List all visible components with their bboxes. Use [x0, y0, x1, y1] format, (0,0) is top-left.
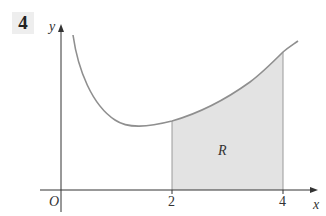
y-axis-label: y: [47, 19, 56, 34]
origin-label: O: [49, 194, 59, 209]
tick-label-4: 4: [279, 194, 286, 209]
x-axis-label: x: [312, 197, 320, 212]
tick-label-2: 2: [168, 194, 175, 209]
graph: y x O 2 4 R: [0, 0, 326, 216]
x-axis-arrow-icon: [310, 187, 318, 193]
region-label: R: [217, 143, 227, 158]
region-r: [172, 52, 283, 190]
y-axis-arrow-icon: [58, 24, 64, 32]
